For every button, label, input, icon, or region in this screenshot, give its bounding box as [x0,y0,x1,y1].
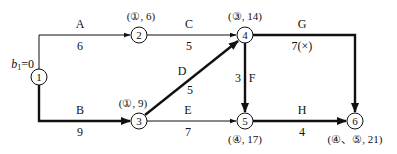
activity-e-name: E [184,103,191,117]
activity-g: G 7(×) [253,17,355,112]
activity-f: 3 F [235,43,256,112]
node-6-label: 6 [352,115,358,127]
activity-c-name: C [185,17,193,31]
activity-g-name: G [298,17,307,31]
node-2-annotation: (①, 6) [127,10,156,23]
node-1: 1 [31,69,47,85]
start-label-eq: =0 [21,57,34,71]
activity-b-duration: 9 [77,125,83,139]
activity-h-name: H [298,103,307,117]
node-3-annotation: (①, 9) [119,97,148,110]
node-6-annotation: (④、⑤, 21) [328,133,383,146]
network-diagram: A 6 B 9 C 5 D 5 E 7 3 F G 7(×) H 4 [0,0,397,154]
activity-b: B 9 [39,85,130,139]
node-2-label: 2 [136,29,142,41]
activity-f-name: F [249,71,256,85]
node-5-annotation: (④, 17) [228,133,262,146]
activity-a: A 6 [39,17,130,69]
node-5: 5 [237,113,253,129]
start-label: b1=0 [11,57,34,72]
node-4-annotation: (③, 14) [228,10,262,23]
node-3-label: 3 [136,115,142,127]
node-3: 3 [131,113,147,129]
activity-f-duration: 3 [235,71,241,85]
activity-g-duration: 7(×) [292,39,313,53]
activity-e: E 7 [147,103,236,139]
node-1-label: 1 [36,71,42,83]
activity-h-duration: 4 [299,125,305,139]
activity-c-duration: 5 [186,39,192,53]
activity-a-name: A [76,17,85,31]
activity-b-name: B [76,103,84,117]
node-2: 2 [131,27,147,43]
node-6: 6 [347,113,363,129]
activity-e-duration: 7 [185,125,191,139]
activity-a-duration: 6 [77,39,83,53]
activity-d-duration: 5 [187,83,193,97]
node-4: 4 [237,27,253,43]
activity-d-name: D [178,64,187,78]
node-4-label: 4 [242,29,248,41]
activity-c: C 5 [147,17,236,53]
node-5-label: 5 [242,115,248,127]
